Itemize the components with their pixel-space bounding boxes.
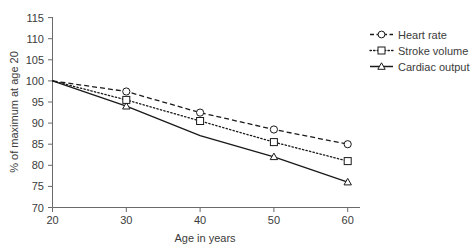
legend-item-cardiac-output[interactable]: Cardiac output — [370, 61, 470, 73]
legend-square-icon — [378, 47, 385, 54]
legend-label-stroke-volume: Stroke volume — [398, 45, 468, 57]
y-tick-label-85: 85 — [32, 138, 44, 150]
legend-label-heart-rate: Heart rate — [398, 29, 447, 41]
heart-rate-marker-30 — [123, 88, 130, 95]
y-axis-tick-labels: 70 75 80 85 90 95 100 105 110 115 — [26, 12, 44, 214]
series-stroke-volume — [53, 81, 352, 165]
heart-rate-marker-50 — [270, 126, 277, 133]
stroke-volume-marker-50 — [270, 139, 277, 146]
y-tick-label-100: 100 — [26, 75, 44, 87]
chart-figure: 70 75 80 85 90 95 100 105 110 115 20 30 … — [0, 0, 471, 248]
y-tick-label-75: 75 — [32, 180, 44, 192]
stroke-volume-marker-30 — [123, 96, 130, 103]
series-cardiac-output — [53, 81, 352, 185]
x-tick-label-30: 30 — [120, 214, 132, 226]
y-tick-label-70: 70 — [32, 202, 44, 214]
legend-item-heart-rate[interactable]: Heart rate — [370, 29, 447, 41]
y-tick-label-110: 110 — [26, 33, 44, 45]
x-axis-title: Age in years — [174, 232, 236, 244]
heart-rate-marker-40 — [197, 109, 204, 116]
chart-legend: Heart rate Stroke volume Cardiac output — [370, 29, 470, 73]
legend-circle-icon — [378, 31, 385, 38]
stroke-volume-marker-40 — [197, 118, 204, 125]
y-axis-ticks — [48, 18, 53, 208]
y-tick-label-80: 80 — [32, 159, 44, 171]
x-tick-label-50: 50 — [268, 214, 280, 226]
stroke-volume-marker-60 — [344, 158, 351, 165]
x-tick-label-60: 60 — [342, 214, 354, 226]
line-chart-canvas: 70 75 80 85 90 95 100 105 110 115 20 30 … — [0, 0, 471, 248]
legend-label-cardiac-output: Cardiac output — [398, 61, 470, 73]
y-tick-label-90: 90 — [32, 117, 44, 129]
cardiac-output-line — [53, 81, 348, 182]
y-tick-label-105: 105 — [26, 54, 44, 66]
y-tick-label-115: 115 — [26, 12, 44, 24]
legend-item-stroke-volume[interactable]: Stroke volume — [370, 45, 468, 57]
y-tick-label-95: 95 — [32, 96, 44, 108]
heart-rate-marker-60 — [344, 141, 351, 148]
y-axis-title: % of maximum at age 20 — [8, 51, 20, 173]
x-axis-ticks — [53, 208, 348, 213]
x-tick-label-20: 20 — [46, 214, 58, 226]
x-axis-tick-labels: 20 30 40 50 60 — [46, 214, 353, 226]
x-tick-label-40: 40 — [194, 214, 206, 226]
series-heart-rate — [53, 81, 352, 148]
